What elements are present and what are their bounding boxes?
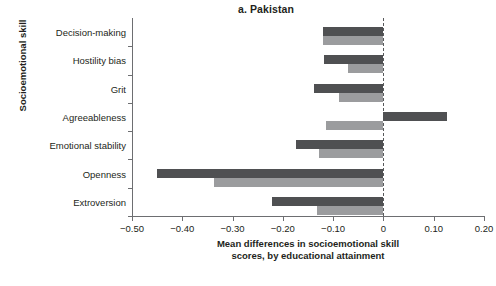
bar-dark xyxy=(272,197,383,206)
chart-title-text: a. Pakistan xyxy=(238,3,294,15)
x-axis-tick-label: −0.50 xyxy=(120,223,144,234)
y-axis-tick xyxy=(128,216,132,217)
y-axis-title: Socioemotional skill xyxy=(17,0,28,146)
bar-light xyxy=(348,64,383,73)
x-axis-tick xyxy=(383,216,384,221)
bar-dark xyxy=(157,169,384,178)
x-axis-tick-label: 0.20 xyxy=(475,223,494,234)
bar-light xyxy=(339,93,384,102)
y-axis-spine xyxy=(132,18,133,216)
y-axis-category-label: Agreeableness xyxy=(63,112,126,123)
x-axis-tick xyxy=(233,216,234,221)
bar-dark xyxy=(296,140,383,149)
chart-figure: a. Pakistan Socioemotional skill −0.50−0… xyxy=(0,0,496,286)
x-axis-tick-label: −0.40 xyxy=(170,223,194,234)
x-axis-tick xyxy=(283,216,284,221)
bar-light xyxy=(326,121,384,130)
y-axis-category-label: Hostility bias xyxy=(73,55,126,66)
x-axis-tick xyxy=(484,216,485,221)
chart-title: a. Pakistan xyxy=(0,3,496,15)
bar-dark xyxy=(324,55,384,64)
y-axis-category-label: Extroversion xyxy=(73,196,126,207)
y-axis-category-label: Grit xyxy=(111,83,126,94)
bar-dark xyxy=(323,27,384,36)
x-axis-tick xyxy=(182,216,183,221)
x-axis-title: Mean differences in socioemotional skill… xyxy=(132,238,484,262)
y-axis-tick xyxy=(128,46,132,47)
x-axis-tick-label: 0 xyxy=(381,223,386,234)
x-axis-tick-label: −0.30 xyxy=(221,223,245,234)
plot-area: −0.50−0.40−0.30−0.20−0.1000.100.20Decisi… xyxy=(132,18,484,216)
y-axis-category-label: Openness xyxy=(83,168,126,179)
y-axis-tick xyxy=(128,75,132,76)
x-axis-title-line1: Mean differences in socioemotional skill xyxy=(132,238,484,250)
bar-dark xyxy=(314,84,384,93)
y-axis-tick xyxy=(128,103,132,104)
y-axis-tick xyxy=(128,131,132,132)
y-axis-tick xyxy=(128,188,132,189)
y-axis-category-label: Emotional stability xyxy=(49,140,126,151)
bar-light xyxy=(214,178,383,187)
y-axis-tick xyxy=(128,159,132,160)
footer-sliver xyxy=(0,279,496,286)
bar-light xyxy=(319,149,384,158)
x-axis-line xyxy=(132,216,484,217)
x-axis-tick xyxy=(434,216,435,221)
y-axis-category-label: Decision-making xyxy=(56,27,126,38)
x-axis-tick-label: −0.10 xyxy=(321,223,345,234)
x-axis-tick xyxy=(132,216,133,221)
bar-light xyxy=(323,36,384,45)
x-axis-title-line2: scores, by educational attainment xyxy=(132,250,484,262)
bar-dark xyxy=(383,112,447,121)
bar-light xyxy=(317,206,384,215)
x-axis-tick-label: −0.20 xyxy=(271,223,295,234)
x-axis-tick xyxy=(333,216,334,221)
x-axis-tick-label: 0.10 xyxy=(424,223,443,234)
